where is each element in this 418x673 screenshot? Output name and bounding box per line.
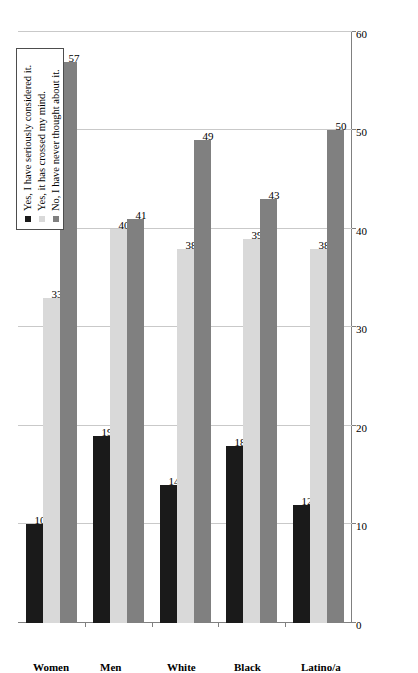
value-axis-tick-label: 20 xyxy=(356,422,367,434)
category-axis-label: White xyxy=(167,661,196,673)
bar-row: 14 xyxy=(160,32,177,623)
bar-value-label: 43 xyxy=(269,187,280,204)
legend-item-label: Yes, I have seriously considered it. xyxy=(22,65,34,211)
category-axis-tick-mark xyxy=(285,623,286,627)
bar-value-label: 41 xyxy=(135,207,146,224)
bar-value-label: 57 xyxy=(68,49,79,66)
bar xyxy=(127,219,144,623)
bar xyxy=(177,249,194,623)
legend-item[interactable]: Yes, I have seriously considered it. xyxy=(22,56,34,222)
legend-swatch-icon xyxy=(25,216,31,222)
bar xyxy=(93,436,110,623)
bar-value-label: 49 xyxy=(202,128,213,145)
bar xyxy=(260,199,277,623)
value-axis-tick-label: 50 xyxy=(356,127,367,139)
category-axis-label: Latino/a xyxy=(301,661,341,673)
bar-row: 12 xyxy=(293,32,310,623)
bar-row: 19 xyxy=(93,32,110,623)
bar xyxy=(160,485,177,623)
value-axis-tick-label: 60 xyxy=(356,28,367,40)
bar-row: 18 xyxy=(226,32,243,623)
category-axis-line xyxy=(351,32,352,623)
legend-item-label: No, I have never thought about it. xyxy=(50,69,62,211)
bar-row: 38 xyxy=(177,32,194,623)
legend-swatch-icon xyxy=(39,216,45,222)
bar xyxy=(26,525,43,624)
value-axis-tick-label: 40 xyxy=(356,225,367,237)
bar xyxy=(243,239,260,623)
value-axis-tick-label: 0 xyxy=(356,619,362,631)
bar-row: 39 xyxy=(243,32,260,623)
bar-row: 41 xyxy=(127,32,144,623)
category-axis-label: Women xyxy=(33,661,69,673)
bar xyxy=(110,229,127,623)
plot-area: 103357194041143849183943123850 xyxy=(18,32,352,623)
chart-legend: Yes, I have seriously considered it.Yes,… xyxy=(16,48,64,230)
category-axis-tick-mark xyxy=(152,623,153,627)
bar-row: 43 xyxy=(260,32,277,623)
bar-row: 38 xyxy=(310,32,327,623)
bar-value-label: 50 xyxy=(336,118,347,135)
category-axis-label: Black xyxy=(234,661,261,673)
value-axis-tick-label: 30 xyxy=(356,324,367,336)
bar xyxy=(194,140,211,623)
category-axis-tick-mark xyxy=(218,623,219,627)
bar-row: 49 xyxy=(194,32,211,623)
legend-item[interactable]: No, I have never thought about it. xyxy=(50,56,62,222)
legend-swatch-icon xyxy=(53,216,59,222)
legend-item-label: Yes, it has crossed my mind. xyxy=(36,91,48,211)
bar-row: 50 xyxy=(327,32,344,623)
bar xyxy=(43,298,60,623)
category-axis-label: Men xyxy=(100,661,121,673)
value-axis-tick-label: 10 xyxy=(356,521,367,533)
legend-item[interactable]: Yes, it has crossed my mind. xyxy=(36,56,48,222)
bar xyxy=(327,131,344,624)
category-axis-tick-mark xyxy=(85,623,86,627)
bar xyxy=(226,446,243,623)
bar xyxy=(310,249,327,623)
bar xyxy=(293,505,310,623)
bar-row: 40 xyxy=(110,32,127,623)
